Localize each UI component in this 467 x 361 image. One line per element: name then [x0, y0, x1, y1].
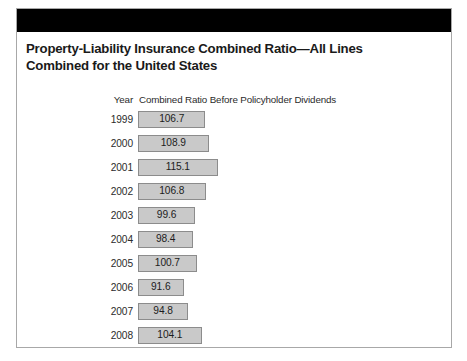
bar [138, 207, 195, 224]
row-year-label: 2003 [93, 207, 133, 224]
row-year-label: 1999 [93, 111, 133, 128]
bar-chart: Year Combined Ratio Before Policyholder … [0, 0, 467, 361]
row-year-label: 2000 [93, 135, 133, 152]
column-header-value: Combined Ratio Before Policyholder Divid… [139, 94, 336, 105]
bar [138, 255, 197, 272]
bar [138, 111, 205, 128]
row-year-label: 2008 [93, 327, 133, 344]
column-header-year: Year [101, 94, 133, 105]
bar [138, 327, 202, 344]
bar [138, 279, 184, 296]
figure-container: Property-Liability Insurance Combined Ra… [0, 0, 467, 361]
bar [138, 303, 188, 320]
row-year-label: 2004 [93, 231, 133, 248]
bar [138, 231, 193, 248]
row-year-label: 2007 [93, 303, 133, 320]
row-year-label: 2006 [93, 279, 133, 296]
bar [138, 135, 209, 152]
row-year-label: 2001 [93, 159, 133, 176]
bar [138, 183, 206, 200]
row-year-label: 2002 [93, 183, 133, 200]
bar [138, 159, 218, 176]
row-year-label: 2005 [93, 255, 133, 272]
